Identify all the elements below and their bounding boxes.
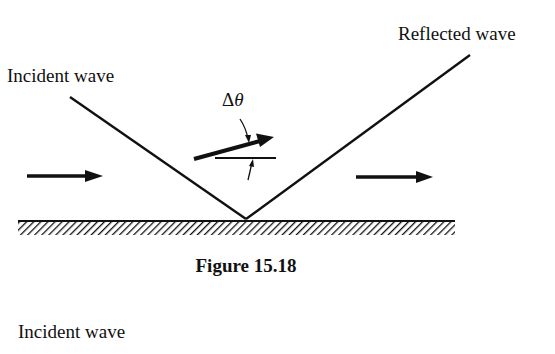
angle-pointer-top-icon — [240, 119, 251, 143]
reflecting-surface — [18, 221, 455, 235]
figure-diagram — [0, 0, 555, 354]
tilted-arrow-icon — [194, 134, 274, 160]
theta-symbol: θ — [234, 89, 243, 110]
right-propagation-arrow-icon — [356, 171, 433, 183]
reflected-wave-label: Reflected wave — [398, 24, 516, 43]
reflected-ray — [246, 55, 470, 219]
incident-wave-label: Incident wave — [7, 66, 114, 85]
delta-theta-label: Δθ — [222, 90, 244, 109]
incident-wave-text: Incident wave — [18, 322, 125, 341]
left-propagation-arrow-icon — [27, 170, 103, 182]
angle-pointer-bottom-icon — [248, 159, 254, 180]
delta-symbol: Δ — [222, 89, 234, 110]
figure-caption: Figure 15.18 — [0, 256, 492, 275]
